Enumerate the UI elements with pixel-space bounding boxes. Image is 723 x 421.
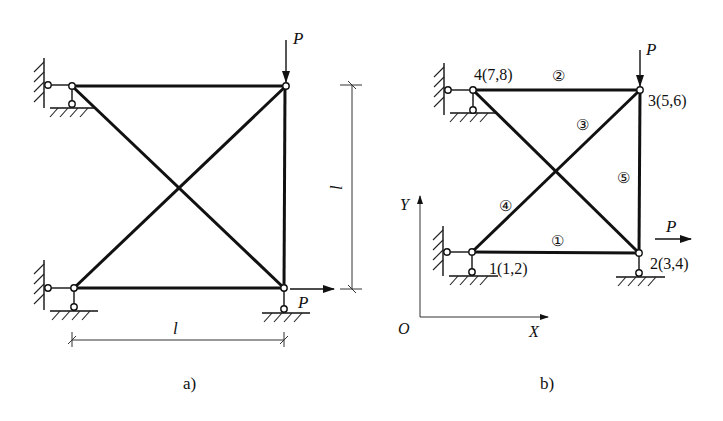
node-pin-icon xyxy=(283,83,289,89)
element-label-1: ① xyxy=(551,233,564,249)
node-pin-icon xyxy=(281,285,287,291)
pin-icon xyxy=(445,87,451,93)
node-4-pin-icon xyxy=(470,87,476,93)
element-label-2: ② xyxy=(552,68,565,84)
support-bottom-left xyxy=(34,260,98,320)
element-label-3: ③ xyxy=(576,117,589,133)
x-axis-label: X xyxy=(528,323,540,340)
load-label-top: P xyxy=(292,29,303,48)
pin-icon xyxy=(45,285,51,291)
load-label-bottom: P xyxy=(297,293,308,312)
node-pin-icon xyxy=(69,83,75,89)
caption-a: a) xyxy=(183,374,196,393)
diagram-a: P P l l a) xyxy=(34,29,362,393)
pin-icon xyxy=(636,270,642,276)
dimension-vertical: l xyxy=(327,81,362,293)
element-5 xyxy=(639,90,640,253)
diagram-b: P P 4(7,8) 3(5,6) 2(3,4) 1(1,2) ② ③ ⑤ ④ … xyxy=(398,40,691,393)
node-label-2: 2(3,4) xyxy=(650,255,689,273)
truss-members-a xyxy=(72,86,286,288)
pin-icon xyxy=(69,101,75,107)
node-2-pin-icon xyxy=(636,250,642,256)
pin-icon xyxy=(281,306,287,312)
dimension-horizontal: l xyxy=(68,319,288,347)
node-3-pin-icon xyxy=(637,87,643,93)
pin-icon xyxy=(444,249,450,255)
node-label-1: 1(1,2) xyxy=(489,260,528,278)
dimension-label-vertical: l xyxy=(327,185,346,190)
node-1-pin-icon xyxy=(469,249,475,255)
dimension-label-horizontal: l xyxy=(173,319,178,338)
element-label-5: ⑤ xyxy=(617,170,630,186)
pin-icon xyxy=(71,304,77,310)
node-label-4: 4(7,8) xyxy=(474,66,513,84)
pin-icon xyxy=(470,107,476,113)
y-axis-label: Y xyxy=(400,196,411,213)
vertical-member xyxy=(284,86,285,288)
node-pin-icon xyxy=(71,285,77,291)
node-label-3: 3(5,6) xyxy=(648,92,687,110)
truss-members-b xyxy=(472,90,640,253)
pin-icon xyxy=(45,82,51,88)
caption-b: b) xyxy=(540,374,554,393)
element-label-4: ④ xyxy=(499,198,512,214)
pin-icon xyxy=(469,269,475,275)
truss-figure: P P l l a) xyxy=(0,0,723,421)
load-label-top: P xyxy=(645,40,656,59)
origin-label: O xyxy=(398,320,410,337)
element-1 xyxy=(472,252,639,253)
load-label-right: P xyxy=(665,217,676,236)
